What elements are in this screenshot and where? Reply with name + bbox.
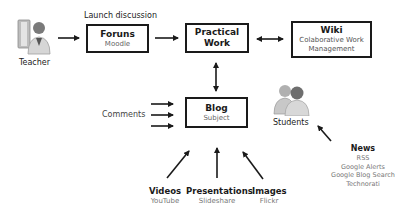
forums-subtitle: Moodle [105,40,130,49]
news-block: News RSS Google Alerts Google Blog Searc… [326,144,400,188]
images-subtitle: Flickr [252,197,286,205]
videos-title: Videos [148,186,182,196]
teacher-person-icon [16,16,52,56]
videos-subtitle: YouTube [148,197,182,205]
launch-discussion-annotation: Launch discussion [84,11,157,20]
forums-title: Foruns [100,29,135,40]
practical-work-box: Practical Work [185,23,249,53]
wiki-subtitle-line1: Colaborative Work [299,36,363,45]
news-item: Technorati [326,180,400,189]
wiki-title: Wiki [320,25,342,36]
forums-box: Foruns Moodle [86,24,149,53]
wiki-subtitle-line2: Management [308,45,354,54]
presentations-subtitle: Slideshare [186,197,248,205]
wiki-box: Wiki Colaborative Work Management [291,21,372,58]
students-group-icon [271,82,313,116]
images-title: Images [252,186,286,196]
blog-title: Blog [205,103,228,114]
comments-label: Comments [102,110,145,119]
news-title: News [326,144,400,154]
blog-box: Blog Subject [185,97,248,128]
blog-subtitle: Subject [203,114,229,123]
students-label: Students [273,118,309,127]
news-item: RSS [326,154,400,163]
practical-work-title-line1: Practical [195,27,239,38]
news-item: Google Alerts [326,163,400,172]
presentations-title: Presentations [186,186,248,196]
teacher-label: Teacher [19,58,50,67]
news-item: Google Blog Search [326,171,400,180]
practical-work-title-line2: Work [204,38,230,49]
